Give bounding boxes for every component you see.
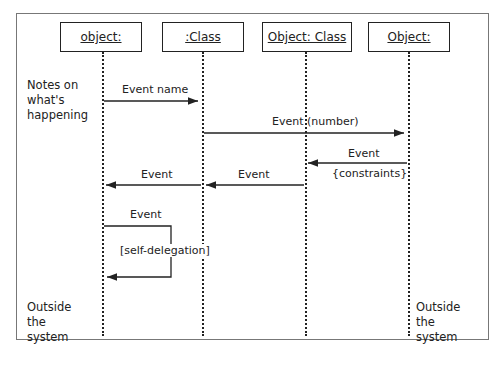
msg-self-event: Event <box>130 208 162 221</box>
msg-event-name: Event name <box>122 83 188 96</box>
note-left-bottom: Outside the system <box>27 300 91 345</box>
msg-self-delegation: [self-delegation] <box>120 244 210 257</box>
msg-event-constraints: Event <box>348 147 380 160</box>
note-right-bottom: Outside the system <box>416 300 480 345</box>
note-left-top: Notes on what's happening <box>27 78 87 123</box>
msg-event-number: Event (number) <box>272 115 359 128</box>
msg-constraints-label: {constraints} <box>332 167 407 180</box>
msg-event-3: Event <box>238 168 270 181</box>
msg-event-4: Event <box>141 168 173 181</box>
